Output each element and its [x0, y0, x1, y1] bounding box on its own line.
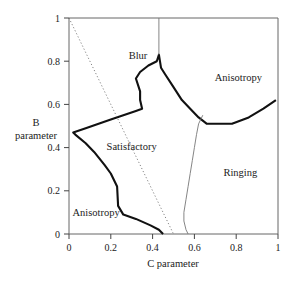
y-tick-label: 1	[55, 13, 60, 24]
region-label-anisotropy: Anisotropy	[73, 207, 121, 218]
x-axis-label: C parameter	[147, 258, 199, 269]
region-label-anisotropy: Anisotropy	[215, 72, 263, 83]
boundary-curves	[69, 18, 276, 234]
diagonal-reference	[69, 18, 174, 234]
region-label-ringing: Ringing	[223, 167, 258, 178]
region-label-satisfactory: Satisfactory	[107, 141, 158, 152]
x-tick-label: 0.4	[146, 242, 159, 253]
x-tick-label: 0.8	[230, 242, 243, 253]
x-tick-label: 1	[276, 242, 281, 253]
y-axis-label-line1: B	[32, 117, 39, 128]
y-tick-label: 0	[55, 229, 60, 240]
y-tick-label: 0.2	[48, 185, 61, 196]
region-label-blur: Blur	[129, 50, 148, 61]
x-tick-label: 0.2	[105, 242, 118, 253]
x-tick-label: 0.6	[188, 242, 201, 253]
y-tick-label: 0.4	[48, 142, 61, 153]
phase-diagram: 00.20.40.60.81 00.20.40.60.81 BlurAnisot…	[0, 0, 295, 284]
y-axis-label-line2: parameter	[15, 130, 57, 141]
y-axis-ticks: 00.20.40.60.81	[48, 13, 70, 240]
ringing-boundary	[184, 115, 203, 234]
x-axis-ticks: 00.20.40.60.81	[67, 234, 281, 253]
x-tick-label: 0	[67, 242, 72, 253]
plot-frame	[69, 18, 278, 234]
y-tick-label: 0.6	[48, 99, 61, 110]
region-labels: BlurAnisotropySatisfactoryRingingAnisotr…	[73, 50, 263, 218]
y-tick-label: 0.8	[48, 56, 61, 67]
